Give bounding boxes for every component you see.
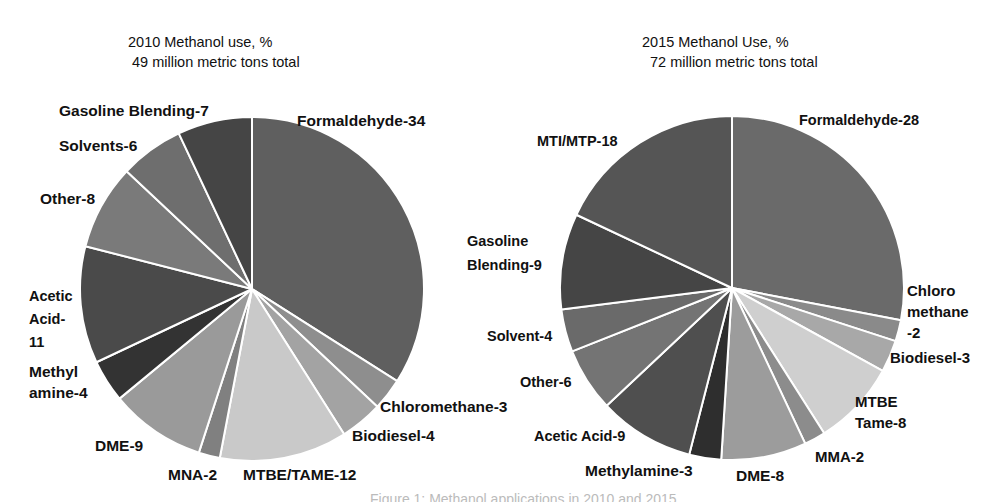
label-2015-gasoline-blending: Gasoline Blending-9: [467, 229, 542, 277]
label-2010-mtbe: MTBE/TAME-12: [243, 464, 356, 485]
label-2010-solvents: Solvents-6: [59, 135, 137, 156]
pie-slice-formaldehyde: [732, 116, 904, 320]
figure-caption: Figure 1: Methanol applications in 2010 …: [370, 491, 677, 502]
title-2010-line1: 2010 Methanol use, %: [128, 32, 300, 52]
label-2015-chloromethane: Chloro methane -2: [907, 280, 969, 343]
chart-title-2015: 2015 Methanol Use, % 72 million metric t…: [642, 32, 818, 72]
label-2015-biodiesel: Biodiesel-3: [890, 347, 970, 368]
pie-2010: [80, 117, 424, 461]
label-2010-dme: DME-9: [95, 435, 143, 456]
label-2015-solvent: Solvent-4: [487, 326, 552, 347]
title-2015-line2: 72 million metric tons total: [642, 52, 818, 72]
title-2015-line1: 2015 Methanol Use, %: [642, 32, 818, 52]
pie-2015: [560, 116, 904, 460]
label-2015-formaldehyde: Formaldehyde-28: [799, 110, 919, 131]
label-2015-mma: MMA-2: [815, 446, 864, 467]
label-2015-dme: DME-8: [736, 465, 784, 486]
label-2010-acetic-acid: Acetic Acid- 11: [29, 285, 73, 354]
label-2015-other: Other-6: [520, 372, 572, 393]
label-2010-biodiesel: Biodiesel-4: [352, 425, 435, 446]
chart-title-2010: 2010 Methanol use, % 49 million metric t…: [128, 32, 300, 72]
title-2010-line2: 49 million metric tons total: [128, 52, 300, 72]
label-2010-mna: MNA-2: [168, 464, 217, 485]
label-2010-methylamine: Methyl amine-4: [29, 361, 88, 403]
label-2015-mti-mtp: MTI/MTP-18: [537, 131, 618, 152]
label-2015-mtbe-tame: MTBE Tame-8: [855, 391, 906, 433]
label-2010-gasoline-blending: Gasoline Blending-7: [59, 100, 209, 121]
label-2010-chloromethane: Chloromethane-3: [380, 396, 507, 417]
label-2015-methylamine: Methylamine-3: [585, 460, 693, 481]
label-2010-other: Other-8: [40, 188, 95, 209]
label-2010-formaldehyde: Formaldehyde-34: [297, 110, 425, 131]
label-2015-acetic-acid: Acetic Acid-9: [534, 426, 625, 447]
